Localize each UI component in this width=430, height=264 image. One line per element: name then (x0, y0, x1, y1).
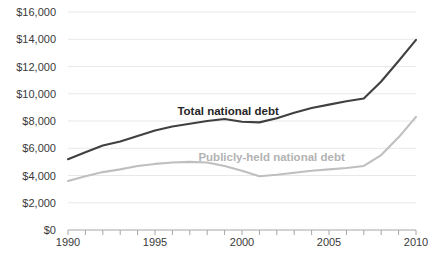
series-line (68, 117, 416, 181)
x-axis-tick-label: 1995 (143, 236, 167, 248)
series-line (68, 40, 416, 159)
x-axis-tick-label: 2010 (404, 236, 428, 248)
x-axis-tick-label: 2005 (317, 236, 341, 248)
national-debt-line-chart: $0$2,000$4,000$6,000$8,000$10,000$12,000… (0, 0, 430, 264)
plot-area (0, 0, 430, 264)
x-axis-tick-label: 1990 (56, 236, 80, 248)
x-axis-ticks (68, 230, 416, 235)
series-label-publicly-held-national-debt: Publicly-held national debt (198, 151, 344, 163)
series-label-total-national-debt: Total national debt (177, 105, 278, 117)
x-axis-tick-label: 2000 (230, 236, 254, 248)
